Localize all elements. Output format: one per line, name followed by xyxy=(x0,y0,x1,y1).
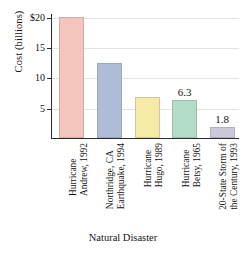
y-axis-title: Cost (billions) xyxy=(13,0,24,102)
x-tick-label-line: Betsy, 1965 xyxy=(191,143,202,187)
bar xyxy=(135,97,160,138)
x-tick-label-line: Hugo, 1989 xyxy=(154,143,165,187)
plot-area: 51015$20 6.31.8 xyxy=(51,14,239,139)
bar xyxy=(210,127,235,138)
x-tick-label-line: Hurricane xyxy=(143,150,154,187)
y-tick-mark xyxy=(47,18,51,19)
bar xyxy=(59,17,84,138)
x-tick-label-line: Hurricane xyxy=(181,150,192,187)
y-tick-mark xyxy=(47,48,51,49)
x-tick-label: HurricaneHugo, 1989 xyxy=(143,143,173,235)
x-tick-label-line: the Century, 1993 xyxy=(229,143,240,210)
x-axis-title: Natural Disaster xyxy=(0,232,246,243)
x-tick-label-line: 20-State Storm of xyxy=(218,143,229,210)
y-tick-mark xyxy=(47,109,51,110)
y-tick-label: $20 xyxy=(30,13,45,23)
bar-value-label: 6.3 xyxy=(178,87,192,98)
x-tick-label-line: Northridge, CA xyxy=(105,150,116,209)
x-axis-line xyxy=(51,138,239,139)
y-tick-label: 5 xyxy=(40,104,45,114)
bar-value-label: 1.8 xyxy=(215,114,229,125)
x-tick-label-line: Andrew, 1992 xyxy=(78,143,89,196)
y-axis-line xyxy=(51,14,52,139)
bar-chart: Cost (billions) 51015$20 6.31.8 Hurrican… xyxy=(0,0,246,253)
y-tick-label: 10 xyxy=(35,73,45,83)
x-tick-label-line: Earthquake, 1994 xyxy=(116,143,127,209)
x-tick-label: 20-State Storm ofthe Century, 1993 xyxy=(218,143,246,235)
y-tick-label: 15 xyxy=(35,43,45,53)
x-tick-label-line: Hurricane xyxy=(68,159,79,196)
bar xyxy=(172,100,197,138)
y-tick-mark xyxy=(47,78,51,79)
x-tick-label: Northridge, CAEarthquake, 1994 xyxy=(105,143,135,235)
bar xyxy=(97,63,122,138)
x-tick-label: HurricaneBetsy, 1965 xyxy=(181,143,211,235)
x-tick-label: HurricaneAndrew, 1992 xyxy=(68,143,98,235)
